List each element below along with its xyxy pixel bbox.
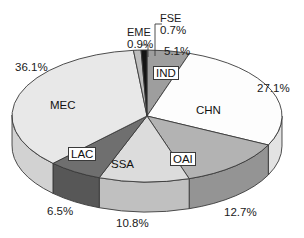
slice-name-lac: LAC: [68, 147, 96, 161]
slice-label-fse: FSE 0.7%: [160, 12, 186, 36]
slice-label-eme-name: EME: [127, 26, 153, 38]
pie-side-ssa: [99, 178, 189, 212]
slice-name-oai: OAI: [170, 152, 196, 166]
slice-pct-oai: 12.7%: [224, 206, 257, 218]
pie-top-faces: [12, 50, 282, 182]
slice-name-ind: IND: [153, 66, 179, 80]
pie-chart-figure: EME 0.9% FSE 0.7% 5.1% 27.1% 12.7% 10.8%…: [0, 0, 304, 238]
slice-name-ssa: SSA: [111, 158, 134, 170]
slice-label-fse-name: FSE: [160, 12, 186, 24]
slice-pct-lac: 6.5%: [47, 205, 73, 217]
slice-pct-mec: 36.1%: [15, 61, 48, 73]
slice-pct-chn: 27.1%: [257, 82, 290, 94]
slice-label-fse-pct: 0.7%: [160, 24, 186, 36]
slice-pct-ssa: 10.8%: [116, 217, 149, 229]
slice-pct-ind: 5.1%: [164, 45, 190, 57]
slice-name-mec: MEC: [50, 99, 76, 111]
slice-label-eme-pct: 0.9%: [127, 38, 153, 50]
slice-name-chn: CHN: [196, 104, 221, 116]
slice-label-eme: EME 0.9%: [127, 26, 153, 50]
